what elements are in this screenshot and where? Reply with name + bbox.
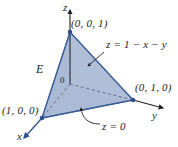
- y-axis: [133, 100, 163, 108]
- vertex-dot-001: [68, 30, 73, 35]
- y-axis-label: y: [152, 110, 157, 121]
- vertex-dot-100: [40, 116, 45, 121]
- region-label-e: E: [36, 63, 44, 75]
- z-axis-label: z: [63, 2, 67, 13]
- vertex-dot-010: [131, 98, 136, 103]
- x-axis-label: x: [17, 131, 22, 142]
- x-axis: [24, 118, 42, 138]
- tetrahedron-figure: (0, 0, 1) (0, 1, 0) (1, 0, 0) 0 E z = 1 …: [0, 0, 178, 147]
- origin-label: 0: [60, 76, 65, 85]
- base-equation-label: z = 0: [102, 121, 126, 132]
- vertex-label-100: (1, 0, 0): [2, 105, 39, 116]
- plane-equation-label: z = 1 − x − y: [106, 39, 167, 50]
- base-label-leader: [81, 108, 100, 124]
- vertex-label-010: (0, 1, 0): [135, 82, 172, 93]
- vertex-label-001: (0, 0, 1): [71, 18, 108, 29]
